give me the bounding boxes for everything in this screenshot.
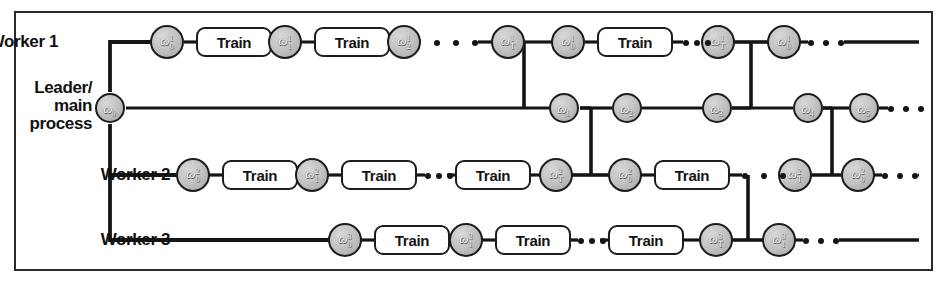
weight-node-label: ω10: [777, 34, 790, 51]
omega-subscript: T: [718, 240, 723, 249]
row-label-worker2: Worker 2: [101, 166, 170, 183]
figure-root: Worker 1 Leader/ main process Worker 2 W…: [0, 0, 951, 286]
weight-node: ω21: [295, 158, 329, 192]
omega-subscript: 1: [565, 108, 569, 118]
weight-node: ω20: [608, 158, 642, 192]
ellipsis-dot: [453, 40, 459, 46]
weight-node-label: ω2: [620, 102, 633, 115]
weight-node-label: ω31: [459, 232, 472, 249]
ellipsis-dot: [903, 106, 909, 112]
omega-symbol: ω: [788, 166, 797, 181]
omega-subscript: 0: [570, 42, 574, 51]
omega-subscript: T: [510, 42, 515, 51]
train-box-label: Train: [675, 167, 709, 184]
ellipsis-dot: [808, 40, 814, 46]
ellipsis-dot: [918, 106, 924, 112]
omega-subscript: 0: [860, 175, 864, 184]
train-box: Train: [374, 225, 450, 255]
train-box: Train: [608, 225, 684, 255]
ellipsis-dot: [434, 40, 440, 46]
ellipsis-dot: [578, 238, 584, 244]
train-box: Train: [455, 160, 531, 190]
weight-node: ω0: [95, 93, 125, 123]
weight-node-label: ω20: [851, 167, 864, 184]
weight-node-label: ω12: [397, 34, 410, 51]
ellipsis-dot: [823, 40, 829, 46]
omega-subscript: 0: [169, 42, 173, 51]
omega-subscript: 4: [809, 108, 813, 118]
ellipsis-dots: [882, 172, 918, 179]
train-box-label: Train: [243, 167, 277, 184]
weight-node-label: ω1: [557, 102, 570, 115]
ellipsis-dot: [742, 173, 748, 179]
train-box-label: Train: [395, 232, 429, 249]
train-box-label: Train: [335, 34, 369, 51]
weight-node: ω2: [612, 93, 642, 123]
omega-subscript: 5: [865, 108, 869, 118]
train-box-label: Train: [629, 232, 663, 249]
ellipsis-dot: [780, 173, 786, 179]
weight-node: ω11: [268, 25, 302, 59]
weight-node: ω1: [549, 93, 579, 123]
train-box-label: Train: [618, 34, 652, 51]
row-label-leader: Leader/ main process: [30, 79, 92, 133]
weight-node-label: ω20: [186, 167, 199, 184]
ellipsis-dot: [838, 40, 844, 46]
weight-node: ω31: [762, 223, 796, 257]
ellipsis-dot: [888, 106, 894, 112]
weight-node-label: ω2T: [549, 167, 563, 184]
omega-subscript: 2: [406, 42, 410, 51]
train-box: Train: [314, 27, 390, 57]
omega-subscript: 0: [627, 175, 631, 184]
omega-symbol: ω: [709, 231, 718, 246]
weight-node: ω30: [328, 223, 362, 257]
ellipsis-dot: [882, 173, 888, 179]
weight-node: ω1T: [491, 25, 525, 59]
omega-subscript: 1: [314, 175, 318, 184]
weight-node: ω3: [702, 93, 732, 123]
train-box-label: Train: [476, 167, 510, 184]
ellipsis-dot: [600, 238, 606, 244]
train-box-label: Train: [516, 232, 550, 249]
omega-subscript: 1: [287, 42, 291, 51]
ellipsis-dot: [425, 173, 431, 179]
weight-node: ω12: [387, 25, 421, 59]
row-label-worker3: Worker 3: [101, 231, 170, 248]
weight-node: ω10: [767, 25, 801, 59]
omega-subscript: 0: [347, 240, 351, 249]
weight-node: ω10: [551, 25, 585, 59]
ellipsis-dots: [425, 172, 453, 179]
ellipsis-dot: [897, 173, 903, 179]
ellipsis-dots: [683, 39, 711, 46]
omega-subscript: T: [720, 42, 725, 51]
ellipsis-dot: [833, 238, 839, 244]
weight-node-label: ω2T: [788, 167, 802, 184]
ellipsis-dots: [803, 237, 839, 244]
weight-node-label: ω10: [561, 34, 574, 51]
weight-node-label: ω20: [618, 167, 631, 184]
weight-node-label: ω4: [801, 102, 814, 115]
ellipsis-dots: [888, 105, 924, 112]
omega-subscript: 2: [628, 108, 632, 118]
weight-node-label: ω3T: [709, 232, 723, 249]
ellipsis-dots: [808, 39, 844, 46]
omega-symbol: ω: [501, 33, 510, 48]
leader-to-worker1-branch: [110, 42, 152, 92]
weight-node: ω4: [793, 93, 823, 123]
omega-subscript: 0: [195, 175, 199, 184]
row-label-worker1: Worker 1: [0, 33, 58, 50]
omega-subscript: 1: [781, 240, 785, 249]
omega-subscript: T: [558, 175, 563, 184]
ellipsis-dots: [434, 39, 478, 46]
ellipsis-dot: [436, 173, 442, 179]
omega-subscript: T: [797, 175, 802, 184]
weight-node: ω20: [841, 158, 875, 192]
row-label-leader-line1: Leader/: [30, 79, 92, 97]
weight-node-label: ω31: [772, 232, 785, 249]
weight-node-label: ω11: [278, 34, 291, 51]
train-box: Train: [654, 160, 730, 190]
weight-node: ω3T: [699, 223, 733, 257]
ellipsis-dot: [694, 40, 700, 46]
omega-subscript: 0: [786, 42, 790, 51]
weight-node: ω20: [176, 158, 210, 192]
